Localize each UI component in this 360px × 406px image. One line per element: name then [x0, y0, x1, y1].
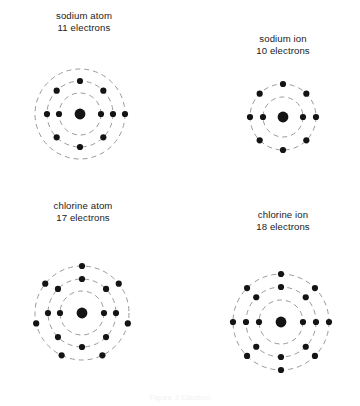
electron-chlorine-atom-shell-2-7 [45, 310, 51, 316]
electron-sodium-ion-shell-2-4 [303, 137, 309, 143]
atom-diagram-chlorine-ion [230, 271, 332, 373]
electron-chlorine-atom-shell-3-1 [79, 263, 85, 269]
electron-chlorine-atom-shell-1-2 [57, 310, 63, 316]
electron-chlorine-atom-shell-2-3 [113, 310, 119, 316]
electron-chlorine-ion-shell-2-4 [303, 344, 309, 350]
electron-chlorine-ion-shell-3-3 [326, 319, 332, 325]
atom-label-name-chlorine-atom: chlorine atom [38, 200, 128, 212]
electron-sodium-ion-shell-2-3 [313, 114, 319, 120]
electron-chlorine-atom-shell-2-2 [103, 286, 109, 292]
atom-diagram-sodium-ion [247, 81, 319, 153]
atom-label-count-chlorine-ion: 18 electrons [239, 221, 327, 233]
electron-chlorine-atom-shell-2-1 [79, 276, 85, 282]
electron-chlorine-ion-shell-3-4 [312, 353, 318, 359]
atom-label-name-sodium-atom: sodium atom [42, 10, 126, 22]
nucleus-sodium-ion [278, 112, 289, 123]
electron-sodium-atom-shell-3-1 [122, 111, 128, 117]
electron-chlorine-ion-shell-2-7 [243, 319, 249, 325]
electron-chlorine-ion-shell-1-1 [300, 319, 306, 325]
electron-sodium-atom-shell-2-2 [100, 88, 106, 94]
atom-diagram-chlorine-atom [33, 263, 131, 360]
electron-sodium-atom-shell-1-1 [98, 111, 104, 117]
atom-label-chlorine-atom: chlorine atom17 electrons [38, 200, 128, 225]
electron-sodium-atom-shell-2-3 [110, 111, 116, 117]
atom-diagram-sodium-atom [35, 69, 128, 159]
atom-label-sodium-atom: sodium atom11 electrons [42, 10, 126, 35]
electron-chlorine-ion-shell-2-1 [278, 284, 284, 290]
atom-label-name-sodium-ion: sodium ion [241, 33, 325, 45]
electron-chlorine-ion-shell-1-2 [256, 319, 262, 325]
atom-label-chlorine-ion: chlorine ion18 electrons [239, 209, 327, 234]
electron-chlorine-atom-shell-3-7 [42, 281, 48, 287]
electron-sodium-ion-shell-2-6 [257, 137, 263, 143]
electron-sodium-ion-shell-2-2 [303, 91, 309, 97]
electron-chlorine-ion-shell-3-2 [312, 285, 318, 291]
electron-sodium-ion-shell-2-7 [247, 114, 253, 120]
electron-chlorine-atom-shell-3-6 [33, 320, 39, 326]
electron-sodium-atom-shell-2-5 [77, 144, 83, 150]
electron-chlorine-ion-shell-2-3 [313, 319, 319, 325]
nucleus-chlorine-ion [276, 317, 287, 328]
atom-label-count-sodium-atom: 11 electrons [42, 22, 126, 34]
electron-chlorine-ion-shell-3-6 [244, 353, 250, 359]
figure-caption: Figure 2 Electron [0, 393, 360, 403]
electron-chlorine-ion-shell-3-1 [278, 271, 284, 277]
atom-label-count-chlorine-atom: 17 electrons [38, 212, 128, 224]
electron-chlorine-ion-shell-3-5 [278, 367, 284, 373]
electron-sodium-atom-shell-2-7 [44, 111, 50, 117]
electron-chlorine-atom-shell-2-4 [103, 334, 109, 340]
electron-sodium-atom-shell-2-6 [54, 134, 60, 140]
electron-sodium-atom-shell-2-4 [100, 134, 106, 140]
electron-sodium-ion-shell-2-5 [280, 147, 286, 153]
electron-chlorine-ion-shell-2-6 [253, 344, 259, 350]
electron-chlorine-ion-shell-2-2 [303, 294, 309, 300]
electron-sodium-ion-shell-2-8 [257, 91, 263, 97]
electron-chlorine-ion-shell-2-5 [278, 354, 284, 360]
electron-chlorine-ion-shell-2-8 [253, 294, 259, 300]
electron-chlorine-atom-shell-2-6 [55, 334, 61, 340]
electron-chlorine-atom-shell-3-4 [99, 352, 105, 358]
electron-sodium-ion-shell-1-1 [300, 114, 306, 120]
electron-sodium-atom-shell-2-8 [54, 88, 60, 94]
electron-sodium-ion-shell-2-1 [280, 81, 286, 87]
atom-label-sodium-ion: sodium ion10 electrons [241, 33, 325, 58]
nucleus-chlorine-atom [77, 308, 88, 319]
electron-chlorine-atom-shell-2-8 [55, 286, 61, 292]
electron-sodium-atom-shell-1-2 [56, 111, 62, 117]
electron-chlorine-ion-shell-3-8 [244, 285, 250, 291]
electron-sodium-ion-shell-1-2 [260, 114, 266, 120]
nucleus-sodium-atom [75, 109, 86, 120]
electron-chlorine-atom-shell-3-3 [125, 320, 131, 326]
electron-chlorine-atom-shell-1-1 [101, 310, 107, 316]
electron-chlorine-atom-shell-2-5 [79, 344, 85, 350]
electron-sodium-atom-shell-2-1 [77, 78, 83, 84]
atom-label-name-chlorine-ion: chlorine ion [239, 209, 327, 221]
electron-chlorine-atom-shell-3-5 [59, 352, 65, 358]
electron-chlorine-ion-shell-3-7 [230, 319, 236, 325]
atom-label-count-sodium-ion: 10 electrons [241, 45, 325, 57]
electron-chlorine-atom-shell-3-2 [116, 281, 122, 287]
